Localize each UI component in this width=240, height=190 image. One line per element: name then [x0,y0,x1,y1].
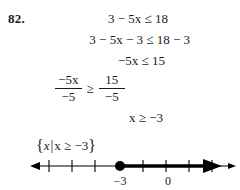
step-3-text: −5x ≤ 15 [118,53,165,68]
step-2-text: 3 − 5x − 3 ≤ 18 − 3 [89,32,190,47]
step-1-text: 3 − 5x ≤ 18 [108,11,168,26]
solution-step-2: 3 − 5x − 3 ≤ 18 − 3 [20,33,220,46]
axis-label-minus-three: −3 [114,174,127,189]
number-line-graph: −3 0 [0,156,240,190]
closed-endpoint-dot [115,161,125,171]
open-brace: { [36,137,44,154]
close-brace: } [88,137,96,154]
solution-set-notation: {x|x ≥ −3} [36,137,96,155]
right-fraction-numerator: 15 [102,73,121,88]
axis-left-arrowhead-icon [30,162,40,170]
axis-right-arrowhead-icon [228,163,236,169]
inequality-solution-card: 82. 3 − 5x ≤ 18 3 − 5x − 3 ≤ 18 − 3 −5x … [0,0,240,190]
solution-step-4-division: −5x −5 ≥ 15 −5 [20,73,220,104]
solution-step-3: −5x ≤ 15 [20,54,220,67]
step-5-text: x ≥ −3 [129,110,163,125]
right-fraction: 15 −5 [99,73,125,104]
number-line-svg [0,156,240,176]
axis-label-zero: 0 [165,174,171,189]
solution-step-1: 3 − 5x ≤ 18 [20,12,220,25]
left-fraction: −5x −5 [55,73,81,104]
left-fraction-denominator: −5 [59,89,79,104]
right-fraction-denominator: −5 [102,89,122,104]
solution-steps: 3 − 5x ≤ 18 3 − 5x − 3 ≤ 18 − 3 −5x ≤ 15… [20,10,220,124]
solution-step-5: x ≥ −3 [20,111,220,124]
set-condition: x ≥ −3 [54,138,88,153]
fraction-relation-symbol: ≥ [82,81,99,97]
left-fraction-numerator: −5x [55,73,81,88]
